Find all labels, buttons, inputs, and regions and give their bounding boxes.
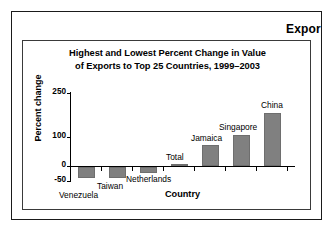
bar-label-china: China	[261, 101, 283, 110]
x-tick-mark-3	[163, 167, 164, 171]
y-axis-title: Percent change	[33, 67, 43, 149]
bar-taiwan	[109, 167, 126, 178]
y-tick-label-neg50: -50	[40, 176, 66, 184]
x-tick-mark-6	[256, 167, 257, 171]
y-tick-label-100: 100	[40, 132, 66, 140]
header-band: Expor	[12, 12, 321, 38]
bar-china	[264, 113, 281, 165]
x-tick-mark-4	[194, 167, 195, 171]
bar-netherlands	[140, 167, 157, 173]
y-tick-mark-250	[67, 93, 71, 94]
chart-container: Highest and Lowest Percent Change in Val…	[22, 40, 311, 210]
x-tick-mark-7	[287, 167, 288, 171]
page-title: Expor	[286, 23, 321, 35]
x-tick-mark-5	[225, 167, 226, 171]
bar-label-netherlands: Netherlands	[126, 175, 171, 184]
bar-label-total: Total	[166, 153, 184, 162]
bar-venezuela	[78, 167, 95, 178]
y-tick-mark-neg50	[67, 181, 71, 182]
bar-label-singapore: Singapore	[219, 123, 257, 132]
bar-total	[171, 164, 188, 166]
y-tick-label-250: 250	[40, 88, 66, 96]
bar-jamaica	[202, 145, 219, 166]
x-tick-mark-1	[101, 167, 102, 171]
x-tick-mark-2	[132, 167, 133, 171]
y-tick-mark-100	[67, 137, 71, 138]
x-axis-title: Country	[70, 189, 295, 199]
plot-area: 250 100 0 -50 Percent change	[23, 41, 311, 210]
y-tick-label-0: 0	[40, 161, 66, 169]
bar-label-jamaica: Jamaica	[191, 134, 222, 143]
screenshot-root: Expor Highest and Lowest Percent Change …	[0, 0, 325, 239]
bar-singapore	[233, 135, 250, 166]
